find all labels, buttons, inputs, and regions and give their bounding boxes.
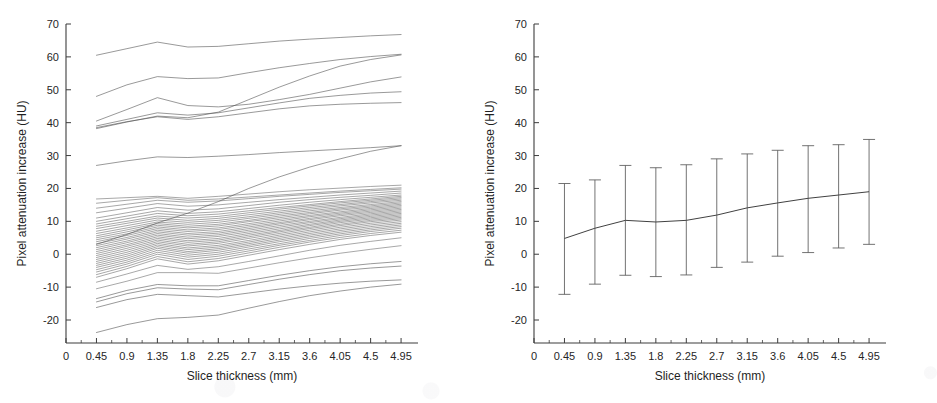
subject-trace	[96, 284, 401, 332]
plot-data-group	[558, 139, 875, 294]
y-tick-label: 10	[47, 215, 59, 227]
x-tick-label: 0.9	[119, 350, 134, 362]
x-tick-label: 0	[63, 350, 69, 362]
y-tick-label: 50	[515, 84, 527, 96]
y-tick-label: 40	[515, 117, 527, 129]
x-tick-label: 4.95	[390, 350, 411, 362]
subject-trace	[96, 35, 401, 56]
left-panel-individual-traces: -20-1001020304050607000.450.91.351.82.25…	[0, 0, 468, 403]
subject-trace	[96, 103, 401, 128]
subject-trace	[96, 77, 401, 121]
x-tick-label: 0.45	[554, 350, 575, 362]
y-tick-label: 0	[53, 248, 59, 260]
x-tick-label: 0.9	[587, 350, 602, 362]
y-tick-label: -10	[43, 281, 59, 293]
subject-trace	[96, 54, 401, 96]
y-axis-title: Pixel attenuation increase (HU)	[15, 100, 29, 266]
x-tick-label: 1.35	[147, 350, 168, 362]
left-plot-svg: -20-1001020304050607000.450.91.351.82.25…	[0, 0, 468, 403]
y-tick-label: -10	[511, 281, 527, 293]
x-tick-label: 1.8	[180, 350, 195, 362]
x-axis-title: Slice thickness (mm)	[187, 369, 298, 383]
x-tick-label: 3.6	[302, 350, 317, 362]
y-tick-label: 50	[47, 84, 59, 96]
right-plot-svg: -20-1001020304050607000.450.91.351.82.25…	[468, 0, 936, 403]
right-panel-mean-errorbars: -20-1001020304050607000.450.91.351.82.25…	[468, 0, 936, 403]
y-tick-label: 70	[47, 18, 59, 30]
figure-container: -20-1001020304050607000.450.91.351.82.25…	[0, 0, 937, 403]
y-tick-label: 20	[515, 182, 527, 194]
x-tick-label: 0	[531, 350, 537, 362]
x-tick-label: 2.25	[208, 350, 229, 362]
subject-trace	[96, 188, 401, 203]
subject-trace	[96, 55, 401, 129]
subject-trace	[96, 199, 401, 229]
y-tick-label: -20	[43, 314, 59, 326]
y-tick-label: 60	[47, 51, 59, 63]
subject-trace	[96, 146, 401, 245]
y-tick-label: 60	[515, 51, 527, 63]
y-tick-label: -20	[511, 314, 527, 326]
subject-trace	[96, 146, 401, 166]
y-tick-label: 10	[515, 215, 527, 227]
x-tick-label: 4.5	[831, 350, 846, 362]
y-axis-title: Pixel attenuation increase (HU)	[483, 100, 497, 266]
y-tick-label: 40	[47, 117, 59, 129]
x-tick-label: 0.45	[86, 350, 107, 362]
x-tick-label: 4.95	[858, 350, 879, 362]
x-tick-label: 4.05	[797, 350, 818, 362]
x-axis-title: Slice thickness (mm)	[655, 369, 766, 383]
x-tick-label: 1.35	[615, 350, 636, 362]
plot-data-group	[96, 35, 401, 333]
y-tick-label: 0	[521, 248, 527, 260]
y-tick-label: 70	[515, 18, 527, 30]
x-tick-label: 4.05	[329, 350, 350, 362]
subject-trace	[96, 266, 401, 302]
x-tick-label: 2.25	[676, 350, 697, 362]
y-tick-label: 30	[515, 150, 527, 162]
x-tick-label: 3.15	[269, 350, 290, 362]
subject-trace	[96, 280, 401, 308]
subject-trace	[96, 227, 401, 270]
x-tick-label: 4.5	[363, 350, 378, 362]
x-tick-label: 3.15	[737, 350, 758, 362]
y-tick-label: 30	[47, 150, 59, 162]
x-tick-label: 2.7	[241, 350, 256, 362]
x-tick-label: 3.6	[770, 350, 785, 362]
y-tick-label: 20	[47, 182, 59, 194]
subject-trace	[96, 92, 401, 126]
x-tick-label: 2.7	[709, 350, 724, 362]
x-tick-label: 1.8	[648, 350, 663, 362]
